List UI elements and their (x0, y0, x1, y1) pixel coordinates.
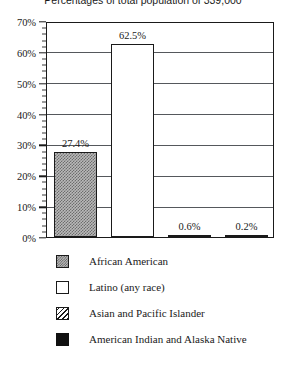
y-major-tick (39, 114, 46, 115)
bar-value-label: 27.4% (62, 138, 89, 149)
y-major-tick (39, 21, 46, 22)
bar (54, 152, 97, 237)
y-tick-label: 50% (17, 78, 36, 89)
y-major-tick (39, 176, 46, 177)
bar-value-label: 0.2% (236, 221, 258, 232)
y-major-tick (39, 145, 46, 146)
bar (225, 235, 268, 237)
legend-item-label: American Indian and Alaska Native (89, 333, 247, 345)
hatch-swatch (56, 255, 69, 268)
gridline (47, 83, 273, 84)
y-major-tick (39, 83, 46, 84)
gridline (47, 114, 273, 115)
y-major-tick (39, 52, 46, 53)
y-tick-label: 40% (17, 109, 36, 120)
legend-item: Asian and Pacific Islander (56, 300, 205, 326)
solid-swatch (56, 333, 69, 346)
y-tick-label: 30% (17, 140, 36, 151)
chart-legend: African AmericanLatino (any race)Asian a… (0, 248, 286, 360)
bar (111, 44, 154, 237)
bar-chart-figure: Percentages of total population of 339,0… (0, 0, 286, 367)
y-tick-label: 10% (17, 202, 36, 213)
y-major-tick (39, 206, 46, 207)
plot-area: 27.4%62.5%0.6%0.2% (46, 22, 274, 238)
y-tick-label: 60% (17, 47, 36, 58)
bar (168, 235, 211, 237)
legend-item-label: Latino (any race) (89, 281, 165, 293)
bar-value-label: 0.6% (179, 221, 201, 232)
bar-value-label: 62.5% (119, 30, 146, 41)
gridline (47, 52, 273, 53)
y-tick-label: 0% (22, 233, 36, 244)
diagonal-swatch (56, 307, 69, 320)
y-tick-label: 20% (17, 171, 36, 182)
legend-item-label: African American (89, 255, 168, 267)
chart-title: Percentages of total population of 339,0… (0, 0, 286, 6)
y-axis: 70%60%50%40%30%20%10%0% (0, 22, 46, 238)
y-tick-label: 70% (17, 17, 36, 28)
white-swatch (56, 281, 69, 294)
legend-item: African American (56, 248, 168, 274)
legend-item-label: Asian and Pacific Islander (89, 307, 205, 319)
legend-item: American Indian and Alaska Native (56, 326, 247, 352)
y-major-tick (39, 237, 46, 238)
legend-item: Latino (any race) (56, 274, 165, 300)
